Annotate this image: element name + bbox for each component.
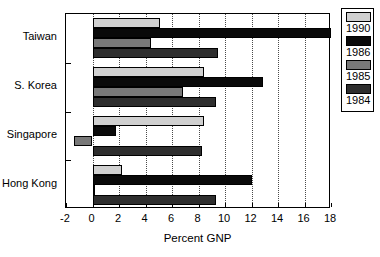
x-axis-tick-label: -2 <box>50 212 80 225</box>
x-axis-tick-label: 8 <box>183 212 213 225</box>
x-axis-tick <box>331 203 332 207</box>
y-axis-category-label: Singapore <box>0 128 57 141</box>
bar <box>93 87 183 97</box>
bar <box>74 136 93 146</box>
legend-entry: 1986 <box>345 36 370 59</box>
bar <box>93 28 332 38</box>
x-axis-tick <box>305 203 306 207</box>
x-axis-tick-label: 4 <box>130 212 160 225</box>
y-axis-category-label: S. Korea <box>0 79 57 92</box>
legend-swatch <box>346 84 371 94</box>
y-axis-tick <box>66 160 71 161</box>
gridline <box>305 14 306 207</box>
bar <box>93 38 151 48</box>
bar <box>93 185 95 195</box>
gridline <box>252 14 253 207</box>
bar <box>93 77 264 87</box>
legend-entry: 1990 <box>345 12 370 35</box>
legend-label: 1990 <box>345 22 370 35</box>
bar <box>93 67 204 77</box>
x-axis-tick <box>252 203 253 207</box>
bar <box>93 48 219 58</box>
y-axis-tick <box>66 112 71 113</box>
bar <box>93 97 216 107</box>
legend-label: 1984 <box>345 94 370 107</box>
x-axis-tick-label: 18 <box>315 212 345 225</box>
bar <box>93 195 216 205</box>
y-axis-tick <box>66 63 71 64</box>
x-axis-tick-label: 2 <box>103 212 133 225</box>
legend-label: 1985 <box>345 70 370 83</box>
x-axis-tick-label: 0 <box>77 212 107 225</box>
x-axis-tick-label: 6 <box>156 212 186 225</box>
gridline <box>278 14 279 207</box>
y-axis-category-label: Taiwan <box>0 30 57 43</box>
x-axis-tick-label: 16 <box>289 212 319 225</box>
x-axis-tick <box>225 203 226 207</box>
x-axis-tick-label: 14 <box>262 212 292 225</box>
legend-entry: 1984 <box>345 84 370 107</box>
bar <box>93 146 203 156</box>
x-axis-tick-label: 12 <box>236 212 266 225</box>
chart-legend: 1990198619851984 <box>341 8 374 112</box>
bar <box>93 18 161 28</box>
legend-swatch <box>346 12 371 22</box>
legend-swatch <box>346 60 371 70</box>
y-axis-category-label: Hong Kong <box>0 177 57 190</box>
x-axis-label: Percent GNP <box>65 232 330 244</box>
legend-entry: 1985 <box>345 60 370 83</box>
bar <box>93 116 204 126</box>
x-axis-tick <box>66 203 67 207</box>
bar <box>93 175 252 185</box>
bar <box>93 126 117 136</box>
x-axis-tick-label: 10 <box>209 212 239 225</box>
legend-label: 1986 <box>345 46 370 59</box>
x-axis-tick <box>278 203 279 207</box>
bar <box>93 165 122 175</box>
bar-chart: Percent GNP 1990198619851984 -2024681012… <box>0 0 380 257</box>
plot-area <box>65 13 330 208</box>
legend-swatch <box>346 36 371 46</box>
